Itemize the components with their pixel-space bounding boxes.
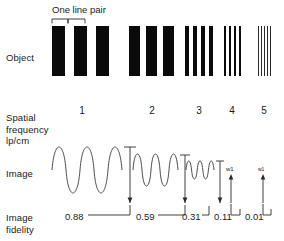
fidelity-leader-5 bbox=[263, 204, 271, 215]
figure-vector-overlay bbox=[0, 0, 284, 241]
fidelity-leader-3 bbox=[202, 206, 209, 215]
amplitude-arrow-1 bbox=[128, 198, 133, 204]
amplitude-arrow-4 bbox=[229, 174, 234, 180]
amplitude-arrow-3 bbox=[218, 198, 223, 204]
fidelity-leader-4 bbox=[231, 204, 240, 215]
fidelity-leader-2 bbox=[158, 205, 185, 215]
amplitude-indicator-2 bbox=[180, 155, 190, 203]
one-line-pair-bracket bbox=[52, 19, 85, 23]
amplitude-arrow-5 bbox=[261, 174, 266, 180]
image-waveform-1 bbox=[52, 147, 122, 193]
fidelity-leader-1 bbox=[88, 205, 130, 215]
amplitude-indicator-3 bbox=[216, 161, 224, 203]
amplitude-indicator-1 bbox=[124, 147, 136, 203]
amplitude-arrow-2 bbox=[183, 198, 188, 204]
figure-canvas: Object Spatial frequency lp/cm Image Ima… bbox=[0, 0, 284, 241]
image-waveform-3 bbox=[186, 161, 214, 179]
image-waveform-2 bbox=[133, 154, 178, 186]
